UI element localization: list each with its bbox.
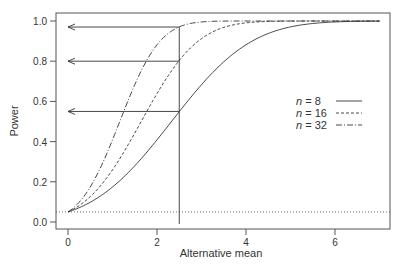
x-tick-label: 6: [332, 237, 338, 248]
y-axis: 0.00.20.40.60.81.0: [33, 16, 56, 228]
x-tick-label: 2: [154, 237, 160, 248]
x-axis: 0246: [65, 229, 338, 248]
y-tick-label: 0.8: [33, 56, 47, 67]
power-curve-chart: 0.00.20.40.60.81.0 0246 n = 8n = 16n = 3…: [0, 0, 408, 268]
y-tick-label: 1.0: [33, 16, 47, 27]
x-tick-label: 0: [65, 237, 71, 248]
power-curve-n16: [68, 21, 380, 212]
power-arrows: [68, 24, 179, 114]
power-curve-n32: [68, 21, 380, 212]
legend-label: n = 16: [296, 107, 327, 119]
power-curves: [68, 21, 380, 212]
x-axis-label: Alternative mean: [180, 247, 263, 259]
y-tick-label: 0.0: [33, 217, 47, 228]
y-tick-label: 0.2: [33, 177, 47, 188]
reference-lines: [56, 27, 390, 224]
y-axis-label: Power: [8, 105, 20, 137]
plot-frame: [56, 13, 390, 229]
legend-label: n = 8: [296, 95, 321, 107]
y-tick-label: 0.4: [33, 137, 47, 148]
legend-label: n = 32: [296, 119, 327, 131]
legend: n = 8n = 16n = 32: [296, 95, 362, 131]
power-curve-n8: [68, 21, 380, 212]
y-tick-label: 0.6: [33, 96, 47, 107]
